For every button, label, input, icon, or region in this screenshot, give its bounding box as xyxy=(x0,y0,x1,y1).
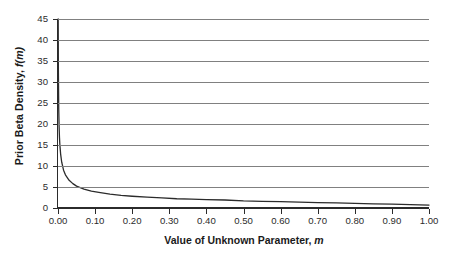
y-axis-tick-label: 40 xyxy=(4,35,48,45)
x-axis-tick xyxy=(58,209,59,214)
y-axis-tick xyxy=(53,40,58,41)
y-axis-tick xyxy=(53,145,58,146)
y-axis-tick-label: 20 xyxy=(4,119,48,129)
gridline xyxy=(58,61,429,62)
y-axis-tick-label: 15 xyxy=(4,140,48,150)
y-axis-tick-label: 30 xyxy=(4,77,48,87)
x-axis-tick xyxy=(281,209,282,214)
y-axis-tick-label: 35 xyxy=(4,56,48,66)
y-axis-tick-label: 5 xyxy=(4,182,48,192)
x-axis-tick xyxy=(206,209,207,214)
x-axis-tick xyxy=(392,209,393,214)
y-axis-tick xyxy=(53,103,58,104)
x-axis-title-main: Value of Unknown Parameter, xyxy=(164,234,311,246)
x-axis-tick xyxy=(169,209,170,214)
gridline xyxy=(58,145,429,146)
y-axis-tick xyxy=(53,124,58,125)
x-axis-tick xyxy=(95,209,96,214)
gridline xyxy=(58,40,429,41)
gridline xyxy=(58,82,429,83)
chart-figure: Prior Beta Density, f(m) Value of Unknow… xyxy=(0,0,459,258)
x-axis-tick xyxy=(244,209,245,214)
x-axis-title-italic: m xyxy=(314,234,323,246)
gridline xyxy=(58,103,429,104)
y-axis-tick xyxy=(53,82,58,83)
x-axis-tick xyxy=(318,209,319,214)
data-curve xyxy=(58,19,429,208)
y-axis-tick-label: 0 xyxy=(4,203,48,213)
y-axis-tick-label: 45 xyxy=(4,14,48,24)
x-axis-tick xyxy=(355,209,356,214)
gridline xyxy=(58,124,429,125)
y-axis-tick xyxy=(53,166,58,167)
plot-area xyxy=(58,19,429,208)
x-axis-tick xyxy=(132,209,133,214)
gridline xyxy=(58,187,429,188)
y-axis-tick xyxy=(53,187,58,188)
y-axis-tick xyxy=(53,19,58,20)
y-axis-tick-label: 25 xyxy=(4,98,48,108)
y-axis-tick xyxy=(53,61,58,62)
x-axis-tick-label: 1.00 xyxy=(407,215,451,226)
gridline xyxy=(58,166,429,167)
x-axis-tick xyxy=(429,209,430,214)
x-axis-title: Value of Unknown Parameter, m xyxy=(58,234,430,246)
y-axis-tick-label: 10 xyxy=(4,161,48,171)
gridline xyxy=(58,19,429,20)
